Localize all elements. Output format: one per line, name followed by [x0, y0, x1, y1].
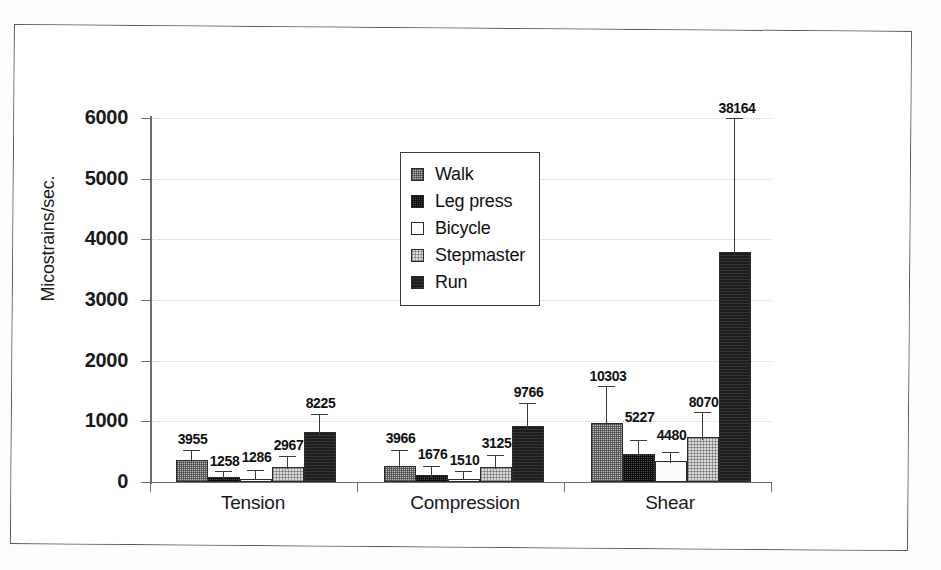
legend-item-stepmaster: Stepmaster [411, 242, 525, 269]
y-tick-3000 [141, 300, 152, 301]
errorbar-compression-bicycle-stem [463, 471, 464, 480]
errorbar-shear-run-cap [726, 118, 743, 119]
y-tick-5000 [141, 179, 152, 180]
bar-compression-walk [384, 466, 416, 482]
value-label-compression-walk: 3966 [374, 430, 427, 446]
value-label-tension-run: 8225 [294, 395, 347, 411]
errorbar-compression-stepmaster-cap [487, 455, 504, 456]
errorbar-compression-run-stem [527, 403, 528, 430]
errorbar-tension-legpress-cap [215, 471, 232, 472]
y-tick-label-5000: 5000 [56, 167, 128, 190]
errorbar-tension-stepmaster-cap [279, 456, 296, 457]
legend-item-bicycle: Bicycle [411, 215, 525, 242]
legend-swatch-walk [411, 168, 424, 181]
legend-label-leg-press: Leg press [435, 191, 512, 212]
y-tick-label-4000: 4000 [56, 227, 128, 250]
value-label-shear-walk: 10303 [578, 368, 638, 384]
legend-label-bicycle: Bicycle [435, 218, 491, 239]
x-tick-0 [150, 482, 151, 492]
gridline-2000 [152, 361, 772, 362]
errorbar-shear-run-stem [734, 118, 735, 256]
legend-item-walk: Walk [411, 161, 525, 188]
errorbar-tension-bicycle-cap [247, 470, 264, 471]
x-tick-2 [564, 482, 565, 492]
errorbar-shear-walk-stem [606, 386, 607, 426]
errorbar-compression-bicycle-cap [455, 471, 472, 472]
errorbar-tension-walk-cap [183, 450, 200, 451]
bar-shear-bicycle [655, 461, 687, 482]
errorbar-compression-stepmaster-stem [495, 455, 496, 469]
gridline-1000 [152, 421, 772, 422]
y-tick-2000 [141, 361, 152, 362]
chart-legend: Walk Leg press Bicycle Stepmaster Run [400, 152, 540, 306]
y-tick-6000 [141, 118, 152, 119]
y-tick-4000 [141, 239, 152, 240]
legend-label-run: Run [435, 272, 467, 293]
bar-shear-walk [591, 423, 623, 482]
y-tick-label-3000: 3000 [56, 288, 128, 311]
x-axis-line [150, 482, 772, 483]
bar-compression-stepmaster [480, 467, 512, 482]
x-group-label-compression: Compression [400, 492, 530, 514]
legend-label-stepmaster: Stepmaster [435, 245, 525, 266]
errorbar-compression-walk-stem [399, 450, 400, 468]
errorbar-shear-stepmaster-stem [702, 412, 703, 440]
legend-item-run: Run [411, 269, 525, 296]
bar-shear-run [719, 252, 751, 482]
y-tick-label-2000: 2000 [56, 349, 128, 372]
chart-plot-area: Micostrains/sec. 6000 5000 4000 3000 200… [0, 0, 941, 570]
gridline-6000 [152, 118, 772, 119]
value-label-tension-walk: 3955 [166, 431, 219, 447]
bar-tension-run [304, 432, 336, 482]
errorbar-tension-bicycle-stem [255, 470, 256, 480]
bar-compression-run [512, 426, 544, 482]
x-group-label-shear: Shear [615, 492, 725, 514]
errorbar-shear-bicycle-stem [670, 452, 671, 463]
value-label-shear-run: 38164 [707, 100, 767, 116]
errorbar-tension-stepmaster-stem [287, 456, 288, 469]
value-label-shear-legpress: 5227 [612, 409, 667, 425]
value-label-compression-bicycle: 1510 [438, 452, 491, 468]
legend-label-walk: Walk [435, 164, 474, 185]
errorbar-tension-walk-stem [191, 450, 192, 462]
errorbar-compression-run-cap [519, 403, 536, 404]
legend-swatch-run [411, 276, 424, 289]
errorbar-shear-stepmaster-cap [694, 412, 711, 413]
legend-item-leg-press: Leg press [411, 188, 525, 215]
x-tick-3 [771, 482, 772, 492]
value-label-compression-run: 9766 [502, 384, 555, 400]
bar-shear-stepmaster [687, 437, 719, 482]
legend-swatch-stepmaster [411, 249, 424, 262]
x-tick-1 [357, 482, 358, 492]
x-group-label-tension: Tension [193, 492, 313, 514]
bar-shear-legpress [623, 454, 655, 482]
y-tick-1000 [141, 421, 152, 422]
errorbar-tension-run-stem [319, 414, 320, 436]
errorbar-shear-walk-cap [598, 386, 615, 387]
legend-swatch-bicycle [411, 222, 424, 235]
y-tick-label-6000: 6000 [56, 106, 128, 129]
figure-page: Micostrains/sec. 6000 5000 4000 3000 200… [0, 0, 941, 570]
errorbar-shear-legpress-stem [638, 440, 639, 456]
bar-tension-stepmaster [272, 467, 304, 482]
errorbar-shear-bicycle-cap [662, 452, 679, 453]
errorbar-compression-legpress-stem [431, 466, 432, 477]
y-tick-label-0: 0 [56, 470, 128, 493]
legend-swatch-leg-press [411, 195, 424, 208]
errorbar-tension-run-cap [311, 414, 328, 415]
y-tick-label-1000: 1000 [56, 409, 128, 432]
